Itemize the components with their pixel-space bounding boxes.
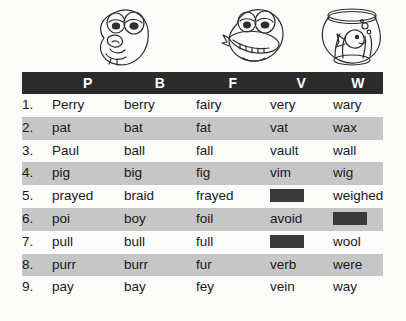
word-cell-w: wary: [333, 94, 383, 117]
word-cell-b: ball: [124, 140, 196, 163]
word-cell-w: wool: [333, 231, 383, 254]
redaction-block: [270, 235, 304, 248]
word-cell-p: pat: [52, 117, 124, 140]
row-number: 3.: [22, 140, 52, 163]
row-number: 1.: [22, 94, 52, 117]
word-cell-p: purr: [52, 254, 124, 277]
word-cell-f: fall: [196, 140, 270, 163]
word-cell-b: bull: [124, 231, 196, 254]
table-body: 1.Perryberryfairyverywary2.patbatfatvatw…: [22, 94, 383, 299]
row-number: 8.: [22, 254, 52, 277]
table-row: 5.prayedbraidfrayedweighed: [22, 185, 383, 208]
redaction-block: [270, 189, 304, 202]
table-row: 1.Perryberryfairyverywary: [22, 94, 383, 117]
word-cell-b: berry: [124, 94, 196, 117]
column-header-f: F: [196, 72, 270, 94]
word-cell-f: fur: [196, 254, 270, 277]
row-number: 6.: [22, 208, 52, 231]
column-header-v: V: [270, 72, 333, 94]
word-cell-v: vat: [270, 117, 333, 140]
word-cell-w: wig: [333, 162, 383, 185]
table-row: 4.pigbigfigvimwig: [22, 162, 383, 185]
table-header-row: P B F V W: [22, 72, 383, 94]
word-cell-f: fey: [196, 276, 270, 299]
row-number: 2.: [22, 117, 52, 140]
word-cell-v: vein: [270, 276, 333, 299]
word-cell-v: vault: [270, 140, 333, 163]
redaction-block: [333, 212, 367, 225]
word-cell-b: bat: [124, 117, 196, 140]
table-row: 7.pullbullfullwool: [22, 231, 383, 254]
word-cell-w: wax: [333, 117, 383, 140]
table-row: 9.paybayfeyveinway: [22, 276, 383, 299]
word-cell-f: fat: [196, 117, 270, 140]
word-cell-p: poi: [52, 208, 124, 231]
word-cell-v: avoid: [270, 208, 333, 231]
redacted-cell-v: [270, 185, 333, 208]
illustration-strip: [0, 0, 406, 72]
table-row: 6.poiboyfoilavoid: [22, 208, 383, 231]
word-cell-p: Perry: [52, 94, 124, 117]
word-cell-f: fig: [196, 162, 270, 185]
grinning-face-icon: [213, 2, 295, 74]
word-cell-b: burr: [124, 254, 196, 277]
fishbowl-icon: [315, 2, 389, 74]
redacted-cell-w: [333, 208, 383, 231]
word-cell-b: big: [124, 162, 196, 185]
redacted-cell-v: [270, 231, 333, 254]
word-cell-b: braid: [124, 185, 196, 208]
word-cell-p: pig: [52, 162, 124, 185]
row-number: 5.: [22, 185, 52, 208]
word-cell-f: full: [196, 231, 270, 254]
row-number: 7.: [22, 231, 52, 254]
word-cell-p: prayed: [52, 185, 124, 208]
minimal-pairs-table: P B F V W 1.Perryberryfairyverywary2.pat…: [22, 72, 383, 299]
column-header-b: B: [124, 72, 196, 94]
table-row: 2.patbatfatvatwax: [22, 117, 383, 140]
word-cell-b: bay: [124, 276, 196, 299]
word-cell-v: very: [270, 94, 333, 117]
column-header-w: W: [333, 72, 383, 94]
word-cell-f: foil: [196, 208, 270, 231]
word-cell-w: were: [333, 254, 383, 277]
row-number: 9.: [22, 276, 52, 299]
word-cell-p: pay: [52, 276, 124, 299]
word-cell-p: Paul: [52, 140, 124, 163]
word-cell-w: wall: [333, 140, 383, 163]
word-cell-p: pull: [52, 231, 124, 254]
word-cell-f: frayed: [196, 185, 270, 208]
row-number: 4.: [22, 162, 52, 185]
column-header-p: P: [52, 72, 124, 94]
pondering-face-icon: [86, 2, 166, 74]
word-cell-w: way: [333, 276, 383, 299]
table-row: 8.purrburrfurverbwere: [22, 254, 383, 277]
word-cell-v: verb: [270, 254, 333, 277]
word-cell-v: vim: [270, 162, 333, 185]
word-cell-f: fairy: [196, 94, 270, 117]
column-header-number: [22, 72, 52, 94]
word-cell-w: weighed: [333, 185, 383, 208]
word-cell-b: boy: [124, 208, 196, 231]
table-row: 3.Paulballfallvaultwall: [22, 140, 383, 163]
